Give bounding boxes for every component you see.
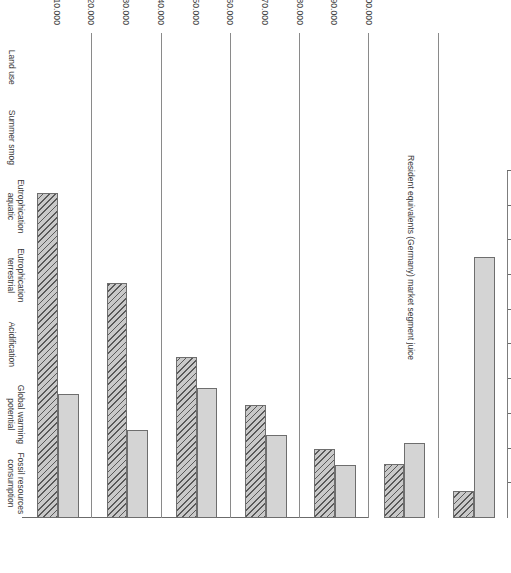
tick-label: 100.000 bbox=[364, 0, 374, 25]
category-label: Summer smog bbox=[6, 102, 16, 171]
category-label: Fossil resources consumption bbox=[6, 449, 25, 518]
bar-group bbox=[91, 33, 160, 518]
category-label: Eutrophication terrestrial bbox=[6, 241, 25, 310]
tick-label: 40.000 bbox=[156, 0, 166, 25]
tick-label: 60.000 bbox=[225, 0, 235, 25]
bar-carton bbox=[197, 388, 218, 518]
bar-group bbox=[438, 33, 507, 518]
category-label: Global warming potential bbox=[6, 379, 25, 448]
category-label: Eutrophication aquatic bbox=[6, 172, 25, 241]
bar-carton bbox=[266, 435, 287, 518]
bar-carton bbox=[335, 465, 356, 518]
tick-label: 10.000 bbox=[52, 0, 62, 25]
tick-label: 30.000 bbox=[121, 0, 131, 25]
tick-label: 80.000 bbox=[295, 0, 305, 25]
bar-group bbox=[161, 33, 230, 518]
bar-group bbox=[230, 33, 299, 518]
bar-carton bbox=[127, 430, 148, 518]
bar-pet bbox=[384, 464, 405, 518]
axis-title: Resident equivalents (Germany) market se… bbox=[406, 156, 416, 361]
tick-label: 20.000 bbox=[86, 0, 96, 25]
bar-group bbox=[299, 33, 368, 518]
category-label: Land use bbox=[6, 33, 16, 102]
plot-area bbox=[22, 33, 369, 518]
bar-pet bbox=[453, 491, 474, 518]
bar-pet bbox=[37, 193, 58, 518]
bar-group bbox=[22, 33, 91, 518]
tick-label: 70.000 bbox=[260, 0, 270, 25]
bar-carton bbox=[58, 394, 79, 518]
value-axis-baseline bbox=[507, 171, 508, 518]
bar-pet bbox=[107, 283, 128, 518]
bar-carton bbox=[404, 443, 425, 518]
tick-label: 90.000 bbox=[329, 0, 339, 25]
bar-carton bbox=[474, 257, 495, 518]
bar-group bbox=[368, 33, 437, 518]
category-label: Acidification bbox=[6, 310, 16, 379]
bar-pet bbox=[245, 405, 266, 518]
tick-label: 50.000 bbox=[191, 0, 201, 25]
bar-pet bbox=[176, 357, 197, 518]
bar-pet bbox=[314, 449, 335, 518]
